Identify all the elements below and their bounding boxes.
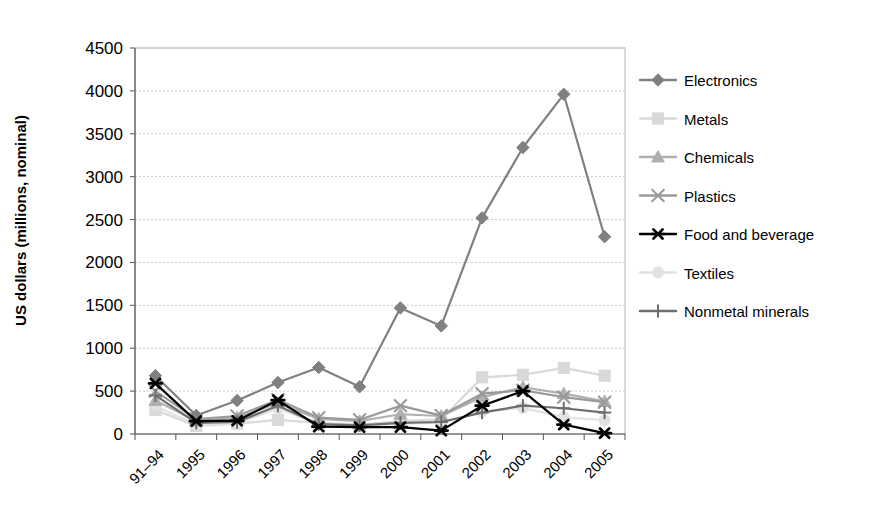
legend-label: Metals [684, 111, 728, 128]
square-marker [599, 370, 610, 381]
legend-label: Textiles [684, 265, 734, 282]
y-axis-tick-label: 1500 [85, 296, 123, 315]
x-axis-tick-label-group: 1997 [254, 446, 290, 482]
data-point-marker-diamond [313, 361, 325, 373]
data-point-marker-square [652, 113, 663, 124]
line-chart: US dollars (millions, nominal) 050010001… [0, 0, 890, 511]
series-line [155, 94, 604, 415]
x-axis-tick-label: 2000 [376, 446, 412, 482]
legend-item-nonmetal-minerals: Nonmetal minerals [640, 303, 809, 320]
x-axis-tick-label-group: 1999 [336, 446, 372, 482]
x-axis-tick-label: 2004 [540, 446, 576, 482]
x-axis-tick-label-group: 1995 [172, 446, 208, 482]
y-axis-tick-label: 3500 [85, 125, 123, 144]
x-axis-tick-label: 1995 [172, 446, 208, 482]
x-axis-tick-label-group: 2001 [417, 446, 453, 482]
diamond-marker [652, 74, 664, 86]
legend-label: Plastics [684, 188, 736, 205]
data-point-marker-diamond [272, 376, 284, 388]
y-axis-tick-label: 2500 [85, 211, 123, 230]
square-marker [652, 113, 663, 124]
diamond-marker [394, 302, 406, 314]
x-axis-tick-label: 1998 [295, 446, 331, 482]
data-point-marker-diamond [394, 302, 406, 314]
data-point-marker-square [558, 362, 569, 373]
x-axis-tick-label-group: 1996 [213, 446, 249, 482]
chart-canvas: 05001000150020002500300035004000450091–9… [0, 0, 890, 511]
legend-item-electronics: Electronics [640, 72, 757, 89]
x-axis-tick-label-group: 1998 [295, 446, 331, 482]
x-axis-tick-label: 91–94 [126, 446, 168, 488]
x-axis-tick-label: 2003 [499, 446, 535, 482]
data-point-marker-plus [557, 402, 570, 415]
plot-frame [135, 48, 625, 434]
legend-label: Electronics [684, 72, 757, 89]
series-chemicals [149, 381, 611, 426]
diamond-marker [313, 361, 325, 373]
x-axis-tick-label: 2005 [581, 446, 617, 482]
legend-label: Nonmetal minerals [684, 303, 809, 320]
legend-item-plastics: Plastics [640, 188, 736, 205]
x-axis-tick-label: 1996 [213, 446, 249, 482]
x-axis-tick-label: 1997 [254, 446, 290, 482]
data-point-marker-asterisk [598, 429, 611, 438]
data-point-marker-square [476, 372, 487, 383]
legend-item-metals: Metals [640, 111, 728, 128]
data-point-marker-square [272, 414, 283, 425]
square-marker [517, 369, 528, 380]
square-marker [558, 362, 569, 373]
data-point-marker-diamond [652, 74, 664, 86]
y-axis-tick-label: 500 [95, 382, 123, 401]
y-axis-tick-label: 1000 [85, 339, 123, 358]
y-axis-tick-label: 0 [114, 425, 123, 444]
x-axis-tick-label: 2001 [417, 446, 453, 482]
data-point-marker-circle [652, 267, 663, 278]
x-axis-tick-label-group: 2002 [458, 446, 494, 482]
circle-marker [652, 267, 663, 278]
diamond-marker [598, 231, 610, 243]
diamond-marker [272, 376, 284, 388]
legend-label: Chemicals [684, 149, 754, 166]
legend-label: Food and beverage [684, 226, 814, 243]
y-axis-tick-label: 3000 [85, 168, 123, 187]
data-point-marker-diamond [598, 231, 610, 243]
data-point-marker-diamond [231, 394, 243, 406]
data-point-marker-diamond [476, 212, 488, 224]
data-point-marker-square [599, 370, 610, 381]
diamond-marker [476, 212, 488, 224]
y-axis-tick-label: 4500 [85, 39, 123, 58]
y-axis-tick-label: 4000 [85, 82, 123, 101]
x-axis-tick-label-group: 2000 [376, 446, 412, 482]
square-marker [272, 414, 283, 425]
x-axis-tick-label: 2002 [458, 446, 494, 482]
x-axis-tick-label-group: 2003 [499, 446, 535, 482]
legend-item-food-and-beverage: Food and beverage [640, 226, 814, 243]
data-point-marker-square [517, 369, 528, 380]
diamond-marker [435, 320, 447, 332]
x-axis-tick-label-group: 2004 [540, 446, 576, 482]
data-point-marker-diamond [435, 320, 447, 332]
legend-item-textiles: Textiles [640, 265, 734, 282]
diamond-marker [231, 394, 243, 406]
square-marker [476, 372, 487, 383]
data-point-marker-asterisk [652, 229, 665, 238]
y-axis-tick-label: 2000 [85, 253, 123, 272]
data-point-marker-plus [651, 304, 664, 317]
x-axis-tick-label-group: 91–94 [126, 446, 168, 488]
legend-item-chemicals: Chemicals [640, 149, 754, 166]
x-axis-tick-label: 1999 [336, 446, 372, 482]
x-axis-tick-label-group: 2005 [581, 446, 617, 482]
